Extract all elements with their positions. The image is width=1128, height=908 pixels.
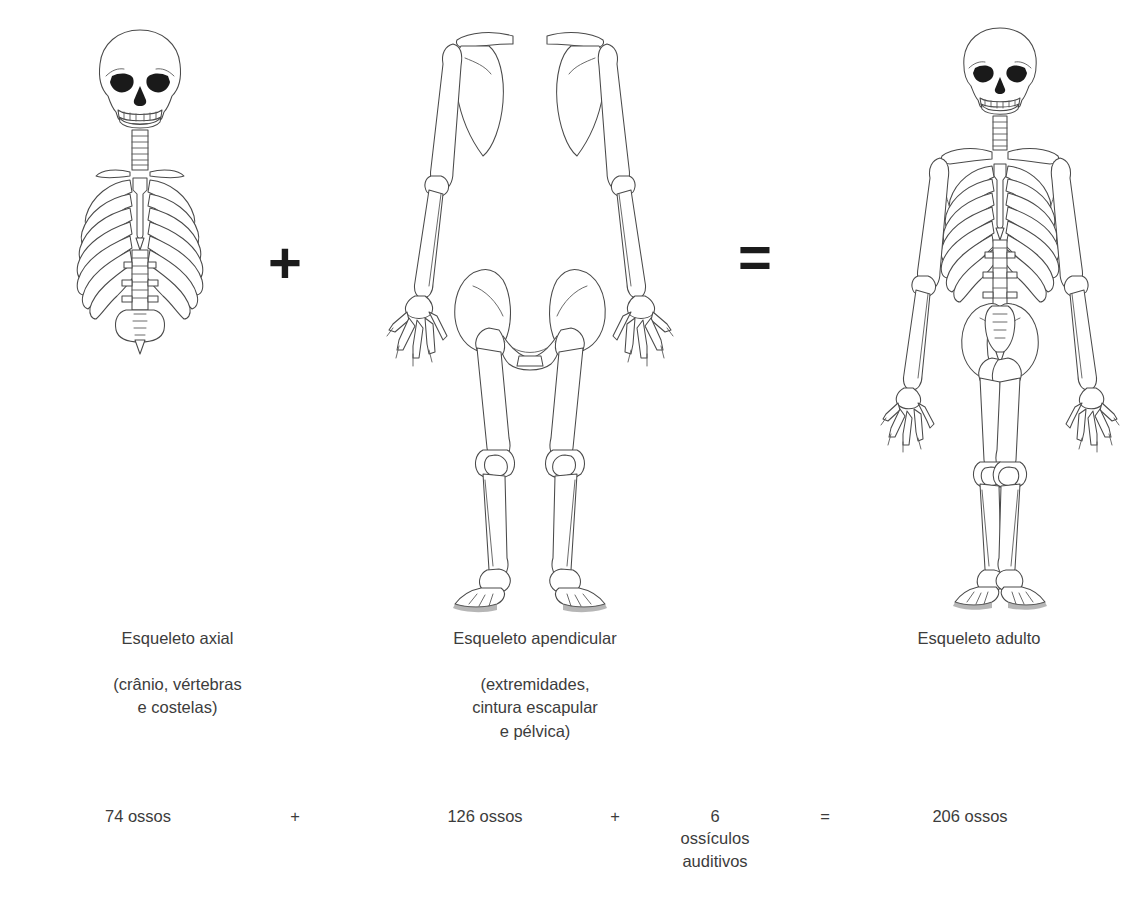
tibia-right xyxy=(552,474,577,578)
cervical-spine xyxy=(132,130,148,170)
foot-left xyxy=(453,569,510,612)
forearm-right xyxy=(1070,290,1097,390)
cervical-spine xyxy=(993,116,1007,150)
knee-right xyxy=(993,462,1026,489)
foot-right xyxy=(996,570,1047,610)
clavicle-left xyxy=(96,170,130,178)
forearm-left xyxy=(414,190,443,298)
femur-right xyxy=(996,378,1020,472)
caption-axial-title: Esqueleto axial xyxy=(0,630,355,647)
caption-adult: Esqueleto adulto xyxy=(830,630,1128,647)
tibia-right xyxy=(998,484,1020,577)
hand-left xyxy=(387,296,447,366)
skull-group xyxy=(99,30,180,128)
equation-auditory-ossicles: 6 ossículos auditivos xyxy=(650,805,780,872)
caption-appendicular-title: Esqueleto apendicular xyxy=(350,630,720,647)
scapula-right xyxy=(557,46,605,156)
equation-equals-operator: = xyxy=(805,805,845,827)
caption-appendicular-subtitle: (extremidades, cintura escapular e pélvi… xyxy=(350,673,720,745)
forearm-left xyxy=(903,290,930,390)
hand-left xyxy=(881,388,934,452)
foot-left xyxy=(953,570,1004,610)
hand-right xyxy=(1066,388,1119,452)
sacrum xyxy=(115,310,164,354)
hand-right xyxy=(613,296,673,366)
equation-axial-bones: 74 ossos xyxy=(48,805,228,827)
femur-left xyxy=(477,348,510,460)
axial-skeleton-illustration xyxy=(40,18,240,348)
foot-right xyxy=(550,569,607,612)
skull-group xyxy=(964,28,1036,114)
forearm-right xyxy=(617,190,646,298)
knee-right xyxy=(546,450,585,479)
appendicular-skeleton-illustration xyxy=(385,18,675,608)
caption-appendicular: Esqueleto apendicular (extremidades, cin… xyxy=(350,630,720,744)
equation-total-bones: 206 ossos xyxy=(880,805,1060,827)
caption-axial: Esqueleto axial (crânio, vértebras e cos… xyxy=(0,630,355,720)
caption-axial-subtitle: (crânio, vértebras e costelas) xyxy=(0,673,355,721)
humerus-right xyxy=(598,44,629,190)
caption-adult-title: Esqueleto adulto xyxy=(830,630,1128,647)
diagram-canvas: + xyxy=(0,0,1128,908)
clavicle-right xyxy=(150,170,184,178)
femur-right xyxy=(550,348,583,460)
adult-skeleton-illustration xyxy=(880,18,1120,608)
humerus-left xyxy=(430,44,461,190)
scapula-left xyxy=(455,46,503,156)
knee-left xyxy=(476,450,515,479)
equation-plus-operator-1: + xyxy=(275,805,315,827)
figure-equals-operator: = xyxy=(738,228,772,286)
equation-appendicular-bones: 126 ossos xyxy=(405,805,565,827)
clavicle-right xyxy=(1008,149,1059,164)
figure-plus-operator: + xyxy=(268,234,302,292)
tibia-left xyxy=(483,474,508,578)
equation-plus-operator-2: + xyxy=(595,805,635,827)
clavicle-left xyxy=(941,149,992,164)
